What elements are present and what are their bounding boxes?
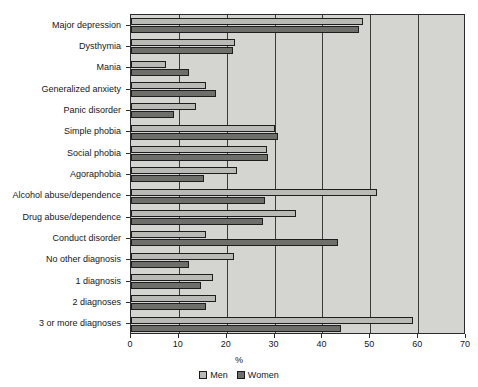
bar-men	[131, 18, 363, 25]
y-axis-labels: Major depressionDysthymiaManiaGeneralize…	[0, 14, 126, 334]
x-axis-tick	[130, 334, 131, 338]
x-axis-title: %	[0, 355, 478, 365]
bar-women	[131, 261, 189, 268]
bar-row	[131, 122, 464, 143]
bar-row	[131, 186, 464, 207]
bar-women	[131, 303, 206, 310]
bar-women	[131, 47, 233, 54]
x-axis-tick-label: 50	[364, 339, 374, 350]
bar-women	[131, 90, 216, 97]
bar-women	[131, 133, 278, 140]
chart-legend: MenWomen	[0, 370, 478, 380]
bar-women	[131, 325, 341, 332]
x-axis-tick	[321, 334, 322, 338]
bar-row	[131, 250, 464, 271]
x-axis-tick	[465, 334, 466, 338]
y-axis-tick-label: Mania	[96, 62, 121, 72]
bar-women	[131, 154, 268, 161]
bar-women	[131, 282, 201, 289]
x-axis-tick-label: 20	[221, 339, 231, 350]
bar-women	[131, 26, 359, 33]
y-axis-tick-label: 1 diagnosis	[75, 276, 121, 286]
x-axis-tick-label: 0	[127, 339, 132, 350]
y-axis-tick-label: Major depression	[52, 20, 121, 30]
bar-men	[131, 167, 237, 174]
bar-men	[131, 295, 216, 302]
x-axis-tick	[274, 334, 275, 338]
bar-men	[131, 39, 235, 46]
y-axis-tick-label: Social phobia	[67, 148, 121, 158]
bar-women	[131, 218, 263, 225]
bar-row	[131, 164, 464, 185]
bar-women	[131, 175, 204, 182]
bar-men	[131, 146, 267, 153]
bar-rows	[131, 15, 464, 333]
bar-row	[131, 314, 464, 335]
bar-row	[131, 292, 464, 313]
bar-men	[131, 103, 196, 110]
legend-item-women: Women	[237, 370, 279, 380]
y-axis-tick-label: Drug abuse/dependence	[22, 212, 121, 222]
legend-swatch-men	[199, 371, 207, 379]
x-axis-tick-label: 40	[316, 339, 326, 350]
bar-men	[131, 317, 413, 324]
bar-row	[131, 100, 464, 121]
bar-row	[131, 15, 464, 36]
bar-row	[131, 271, 464, 292]
y-axis-tick-label: 3 or more diagnoses	[39, 318, 121, 328]
x-axis-tick-label: 30	[269, 339, 279, 350]
y-axis-tick-label: Conduct disorder	[52, 233, 121, 243]
bar-women	[131, 69, 189, 76]
x-axis-tick	[369, 334, 370, 338]
bar-men	[131, 231, 206, 238]
bar-women	[131, 111, 174, 118]
legend-item-men: Men	[199, 370, 228, 380]
bar-men	[131, 253, 234, 260]
bar-row	[131, 207, 464, 228]
bar-men	[131, 189, 377, 196]
bar-row	[131, 36, 464, 57]
bar-men	[131, 82, 206, 89]
y-axis-tick-label: Simple phobia	[64, 126, 121, 136]
x-axis-tick-label: 70	[460, 339, 470, 350]
x-axis-tick	[417, 334, 418, 338]
bar-men	[131, 125, 275, 132]
bar-gap	[131, 110, 464, 111]
chart-figure: Major depressionDysthymiaManiaGeneralize…	[0, 0, 478, 387]
x-axis: 010203040506070	[130, 334, 465, 356]
x-axis-tick	[178, 334, 179, 338]
bar-men	[131, 61, 166, 68]
bar-men	[131, 210, 296, 217]
x-axis-tick-label: 10	[173, 339, 183, 350]
y-axis-tick-label: Generalized anxiety	[41, 84, 121, 94]
bar-women	[131, 239, 338, 246]
legend-swatch-women	[237, 371, 245, 379]
y-axis-tick-label: Agoraphobia	[70, 169, 121, 179]
y-axis-tick-label: Dysthymia	[79, 41, 121, 51]
bar-row	[131, 79, 464, 100]
bar-row	[131, 228, 464, 249]
bar-row	[131, 143, 464, 164]
legend-label: Men	[210, 370, 228, 380]
bar-men	[131, 274, 213, 281]
x-axis-tick-label: 60	[412, 339, 422, 350]
y-axis-tick-label: 2 diagnoses	[72, 297, 121, 307]
bar-women	[131, 197, 265, 204]
plot-area	[130, 14, 465, 334]
x-axis-tick	[226, 334, 227, 338]
y-axis-tick-label: No other diagnosis	[46, 254, 121, 264]
y-axis-tick-label: Panic disorder	[63, 105, 121, 115]
y-axis-tick-label: Alcohol abuse/dependence	[12, 190, 121, 200]
legend-label: Women	[248, 370, 279, 380]
bar-row	[131, 58, 464, 79]
